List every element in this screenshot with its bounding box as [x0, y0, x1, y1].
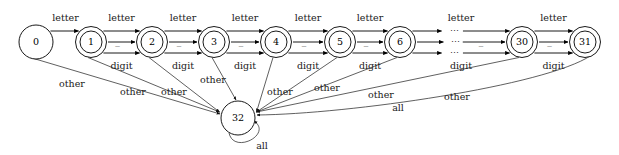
label-letter: letter	[448, 12, 475, 23]
underscore-glyph: _	[239, 36, 244, 47]
state-node-4[interactable]: 4	[261, 27, 292, 58]
state-label-31: 31	[579, 36, 591, 47]
state-node-1[interactable]: 1	[76, 27, 107, 58]
label-digit: digit	[359, 60, 381, 71]
label-other-s30: other	[444, 91, 470, 102]
label-digit: digit	[172, 60, 194, 71]
underscore-glyph: _	[364, 36, 369, 47]
ellipsis-digit: ⋯	[450, 48, 460, 58]
label-other-s4: other	[267, 86, 293, 97]
state-label-5: 5	[337, 36, 343, 47]
state-label-2: 2	[149, 36, 155, 47]
error-transition-s1-to-s32[interactable]	[88, 58, 220, 113]
state-node-30[interactable]: 30	[507, 27, 538, 58]
label-digit: digit	[110, 60, 132, 71]
transition-s4-to-s5[interactable]	[288, 31, 327, 53]
label-self-loop-all: all	[256, 140, 268, 151]
label-digit: digit	[450, 60, 472, 71]
state-node-0[interactable]: 0	[19, 25, 53, 59]
label-digit: digit	[234, 60, 256, 71]
label-letter: letter	[540, 12, 567, 23]
ellipsis-_: ⋯	[451, 37, 461, 47]
label-digit: digit	[542, 60, 564, 71]
state-node-32[interactable]: 32	[221, 101, 255, 135]
state-diagram-canvas: 0123456303132 letterletter_digitletter_d…	[0, 0, 619, 155]
state-label-6: 6	[397, 36, 403, 47]
label-letter: letter	[170, 12, 197, 23]
edge-other-to-error	[88, 58, 220, 113]
label-letter: letter	[232, 12, 259, 23]
state-label-0: 0	[33, 36, 39, 47]
underscore-glyph: _	[302, 36, 307, 47]
state-label-32: 32	[232, 112, 244, 123]
underscore-glyph: _	[547, 36, 552, 47]
label-letter: letter	[357, 12, 384, 23]
underscore-glyph: _	[479, 36, 484, 47]
transition-s3-to-s4[interactable]	[226, 31, 263, 53]
label-letter: letter	[295, 12, 322, 23]
label-digit: digit	[297, 60, 319, 71]
state-label-30: 30	[516, 36, 528, 47]
edge-labels-layer: letterletter_digitletter_digitletter_dig…	[52, 12, 567, 151]
underscore-glyph: _	[177, 36, 182, 47]
state-label-1: 1	[88, 36, 94, 47]
state-node-2[interactable]: 2	[137, 27, 168, 58]
label-other-s5: other	[314, 82, 340, 93]
transition-s5-to-s6[interactable]	[352, 31, 387, 53]
state-node-3[interactable]: 3	[199, 27, 230, 58]
transition-s30-to-s31[interactable]	[534, 31, 572, 53]
label-all-s31: all	[392, 102, 404, 113]
label-other-s1: other	[120, 86, 146, 97]
state-node-5[interactable]: 5	[325, 27, 356, 58]
state-diagram: 0123456303132 letterletter_digitletter_d…	[0, 0, 619, 155]
label-letter: letter	[52, 12, 79, 23]
state-label-3: 3	[211, 36, 217, 47]
label-other-s2: other	[161, 86, 187, 97]
transition-s1-to-s2[interactable]	[103, 31, 139, 53]
transition-s2-to-s3[interactable]	[164, 31, 201, 53]
state-node-6[interactable]: 6	[385, 27, 416, 58]
state-label-4: 4	[273, 36, 279, 47]
label-other-s0: other	[59, 78, 85, 89]
underscore-glyph: _	[115, 36, 120, 47]
label-letter: letter	[108, 12, 135, 23]
state-node-31[interactable]: 31	[570, 27, 601, 58]
label-other-s3: other	[200, 74, 226, 85]
label-other-s6: other	[368, 89, 394, 100]
ellipsis-letter: ⋯	[450, 26, 460, 36]
